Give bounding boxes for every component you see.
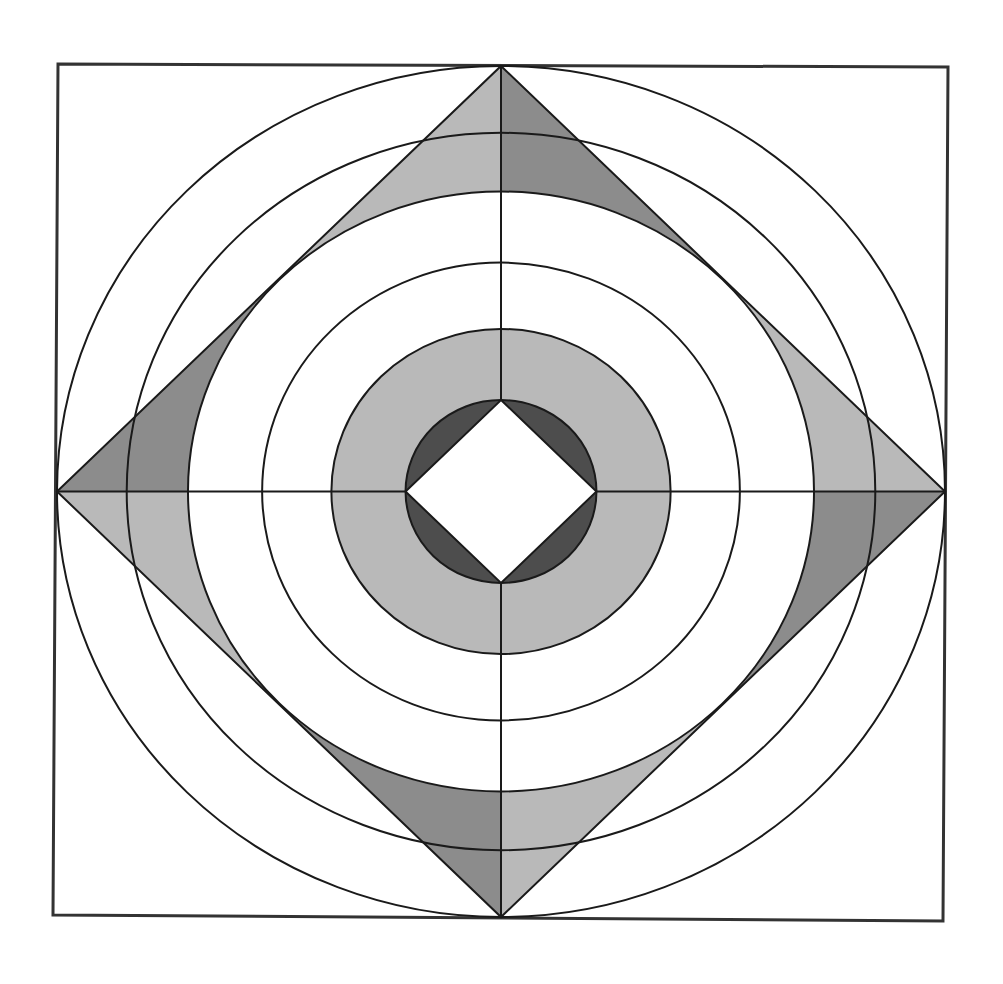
concentric-diamond-figure (0, 0, 1003, 984)
